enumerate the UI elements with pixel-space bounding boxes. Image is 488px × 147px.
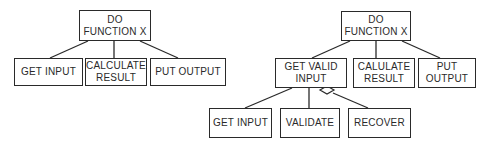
right-get-valid-input-box: GET VALID INPUT — [275, 58, 347, 88]
left-get-input-box: GET INPUT — [14, 58, 83, 86]
left-put-output-box: PUT OUTPUT — [150, 58, 226, 86]
structure-chart-diagram: DO FUNCTION X GET INPUT CALCULATE RESULT… — [0, 0, 488, 147]
right-recover-box: RECOVER — [348, 108, 411, 138]
connector-left-root-putoutput — [140, 41, 178, 58]
right-root-box: DO FUNCTION X — [341, 11, 411, 41]
connector-left-root-getinput — [50, 41, 88, 58]
right-put-output-box: PUT OUTPUT — [418, 58, 476, 88]
connector-getvalid-getinput — [245, 88, 292, 108]
left-root-box: DO FUNCTION X — [79, 10, 151, 41]
right-calculate-result-box: CALULATE RESULT — [353, 58, 415, 88]
connector-right-root-getvalid — [312, 41, 350, 58]
right-get-input-box: GET INPUT — [209, 108, 272, 138]
left-calculate-result-box: CALCULATE RESULT — [85, 58, 147, 86]
connector-getvalid-recover — [333, 93, 368, 108]
right-validate-box: VALIDATE — [280, 108, 340, 138]
connector-right-root-putoutput — [402, 41, 440, 58]
